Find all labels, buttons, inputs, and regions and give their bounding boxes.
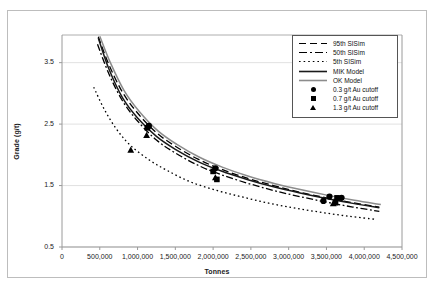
legend-label-cutoff-07: 0.7 g/t Au cutoff — [331, 94, 378, 103]
legend-label-cutoff-13: 1.3 g/t Au cutoff — [331, 103, 378, 112]
chart-figure: Grade (g/t) Tonnes 0.51.52.53.5 0500,000… — [0, 0, 435, 289]
dotted-line-icon — [295, 57, 331, 66]
square-marker-icon — [295, 94, 331, 103]
solid-black-line-icon — [295, 67, 331, 76]
circle-marker-icon — [295, 85, 331, 94]
legend-item-mik-model: MIK Model — [295, 67, 395, 76]
legend-label-ok-model: OK Model — [331, 76, 362, 85]
legend-item-cutoff-07: 0.7 g/t Au cutoff — [295, 94, 395, 103]
solid-gray-line-icon — [295, 76, 331, 85]
legend-item-50th-sisim: 50th SISim — [295, 48, 395, 57]
legend-label-mik-model: MIK Model — [331, 67, 364, 76]
data-marker-0-7-g-t-au-cutoff-3 — [334, 195, 340, 201]
legend-item-5th-sisim: 5th SISim — [295, 57, 395, 66]
data-marker-0-7-g-t-au-cutoff-1 — [210, 169, 216, 175]
legend-label-95th-sisim: 95th SISim — [331, 39, 365, 48]
x-tick-label-9: 4,500,000 — [372, 253, 432, 260]
legend-item-ok-model: OK Model — [295, 76, 395, 85]
x-axis-title: Tonnes — [182, 268, 252, 275]
y-tick-label-0: 0.5 — [28, 243, 54, 250]
y-tick-label-2: 2.5 — [28, 120, 54, 127]
y-axis-title: Grade (g/t) — [13, 112, 20, 172]
legend-label-5th-sisim: 5th SISim — [331, 57, 361, 66]
dash-dot-line-icon — [295, 48, 331, 57]
y-tick-label-1: 1.5 — [28, 181, 54, 188]
data-marker-0-7-g-t-au-cutoff-0 — [145, 125, 151, 131]
dashed-line-icon — [295, 39, 331, 48]
legend-item-cutoff-03: 0.3 g/t Au cutoff — [295, 85, 395, 94]
y-tick-label-3: 3.5 — [28, 58, 54, 65]
legend-item-95th-sisim: 95th SISim — [295, 39, 395, 48]
chart-legend: 95th SISim 50th SISim 5th SISim MIK Mode… — [292, 35, 398, 118]
triangle-marker-icon — [295, 103, 331, 112]
legend-item-cutoff-13: 1.3 g/t Au cutoff — [295, 103, 395, 112]
legend-label-50th-sisim: 50th SISim — [331, 48, 365, 57]
legend-label-cutoff-03: 0.3 g/t Au cutoff — [331, 85, 378, 94]
data-marker-0-3-g-t-au-cutoff-2 — [326, 194, 332, 200]
data-marker-0-3-g-t-au-cutoff-4 — [320, 198, 326, 204]
